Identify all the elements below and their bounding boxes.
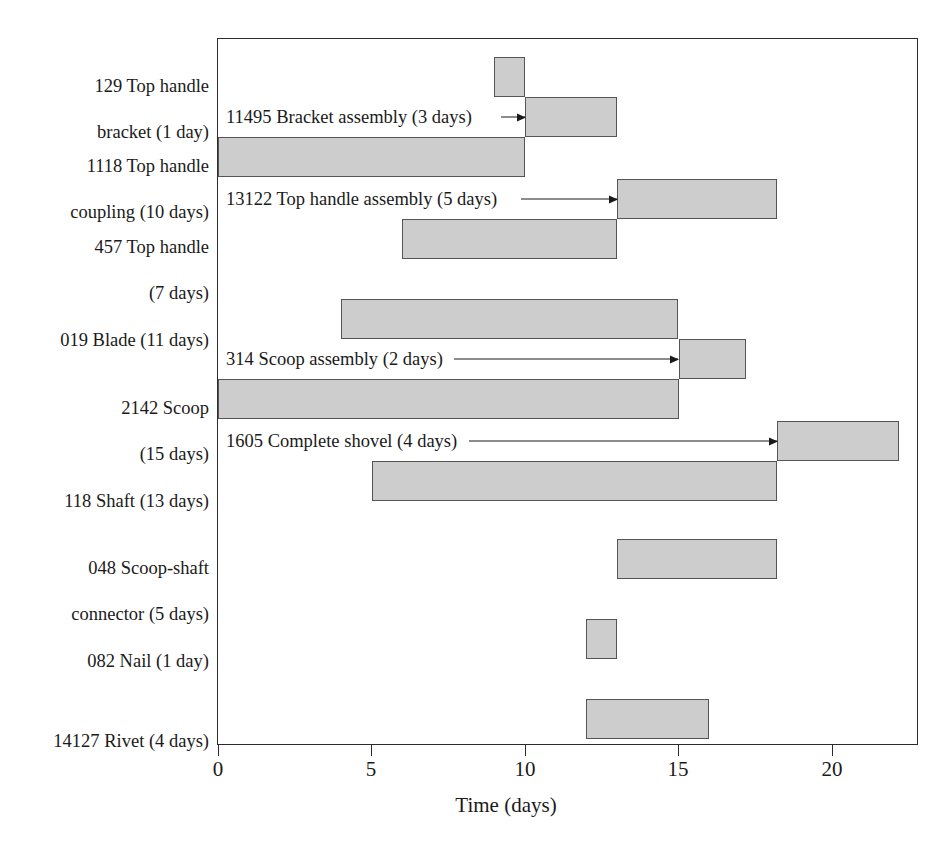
y-label-line1: 118 Shaft (13 days) — [64, 490, 209, 513]
plot-area: 11495 Bracket assembly (3 days) 13122 To… — [217, 38, 918, 745]
y-label-line1: 2142 Scoop — [121, 397, 209, 420]
x-axis-title-wrap: Time (days) — [0, 793, 944, 818]
gantt-bar-048-scoop-shaft-connector — [617, 539, 777, 579]
gantt-bar-1118-top-handle-coupling — [218, 137, 525, 177]
x-axis-tick-0 — [218, 745, 219, 756]
gantt-bar-2142-scoop — [218, 379, 679, 419]
y-label-line1: 048 Scoop-shaft — [71, 557, 209, 580]
y-label-line1: 1118 Top handle — [70, 155, 209, 178]
x-axis-tick-label-5: 5 — [366, 757, 377, 782]
annotation-arrow-icon — [454, 359, 678, 360]
annotation-arrow-icon — [501, 117, 525, 118]
x-axis-tick-label-15: 15 — [668, 757, 689, 782]
annotation-label: 1605 Complete shovel (4 days) — [226, 432, 457, 451]
gantt-bar-457-top-handle — [402, 219, 617, 259]
x-axis-tick-20 — [832, 745, 833, 756]
y-label-118-shaft: 118 Shaft (13 days) — [64, 467, 209, 536]
y-label-019-blade: 019 Blade (11 days) — [60, 306, 209, 375]
x-axis-tick-label-0: 0 — [213, 757, 224, 782]
y-label-line1: 129 Top handle — [95, 75, 210, 98]
annotation-arrow-icon — [521, 199, 617, 200]
x-axis-tick-15 — [678, 745, 679, 756]
annotation-arrow-icon — [469, 441, 777, 442]
y-label-line2: connector (5 days) — [71, 603, 209, 626]
gantt-bar-13122-top-handle-assembly — [617, 179, 777, 219]
y-label-14127-rivet: 14127 Rivet (4 days) — [53, 707, 209, 776]
y-label-line1: 019 Blade (11 days) — [60, 329, 209, 352]
x-axis-tick-5 — [371, 745, 372, 756]
x-axis-tick-label-20: 20 — [822, 757, 843, 782]
gantt-bar-314-scoop-assembly — [679, 339, 747, 379]
y-label-line1: 457 Top handle — [95, 236, 210, 259]
annotation-11495-bracket-assembly: 11495 Bracket assembly (3 days) — [226, 97, 525, 137]
gantt-bar-019-blade — [341, 299, 679, 339]
x-axis-tick-10 — [525, 745, 526, 756]
gantt-bar-082-nail — [586, 619, 617, 659]
y-label-line1: 082 Nail (1 day) — [87, 650, 209, 673]
x-axis-tick-label-10: 10 — [515, 757, 536, 782]
y-label-082-nail: 082 Nail (1 day) — [87, 627, 209, 696]
gantt-bar-11495-bracket-assembly — [525, 97, 617, 137]
y-label-line1: 14127 Rivet (4 days) — [53, 730, 209, 753]
gantt-bar-129-top-handle-bracket — [494, 57, 525, 97]
x-axis-title: Time (days) — [455, 793, 556, 817]
annotation-13122-top-handle-assembly: 13122 Top handle assembly (5 days) — [226, 179, 617, 219]
gantt-bar-14127-rivet — [586, 699, 709, 739]
annotation-314-scoop-assembly: 314 Scoop assembly (2 days) — [226, 339, 678, 379]
annotation-1605-complete-shovel: 1605 Complete shovel (4 days) — [226, 421, 777, 461]
annotation-label: 314 Scoop assembly (2 days) — [226, 350, 443, 369]
annotation-label: 11495 Bracket assembly (3 days) — [226, 108, 472, 127]
gantt-chart: 129 Top handle bracket (1 day) 1118 Top … — [0, 0, 944, 852]
y-label-line2: (15 days) — [121, 443, 209, 466]
y-label-line2: (7 days) — [95, 282, 210, 305]
gantt-bar-118-shaft — [372, 461, 777, 501]
gantt-bar-1605-complete-shovel — [777, 421, 900, 461]
annotation-label: 13122 Top handle assembly (5 days) — [226, 190, 497, 209]
